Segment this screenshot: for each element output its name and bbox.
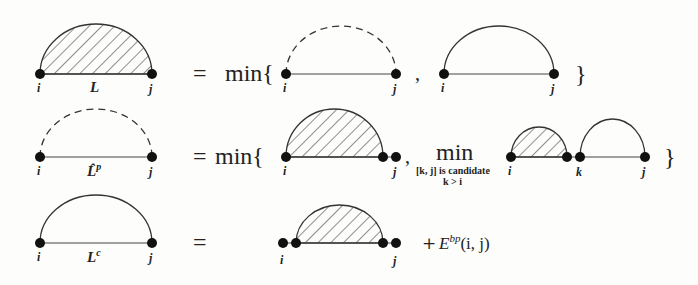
row-3-lhs-solid-loop: i j Lc bbox=[35, 195, 157, 265]
equals-sign: = bbox=[193, 143, 207, 169]
energy-sup-bp: bp bbox=[449, 232, 461, 244]
label-i: i bbox=[37, 81, 41, 95]
energy-expression: Ebp(i, j) bbox=[438, 232, 490, 253]
label-i: i bbox=[37, 164, 41, 178]
label-j: j bbox=[147, 82, 153, 96]
label-sup-p: p bbox=[95, 161, 101, 172]
close-brace: } bbox=[575, 61, 587, 87]
row-2-hatched-loop-double-dot: i j bbox=[281, 109, 401, 179]
label-L-c: Lc bbox=[86, 247, 101, 265]
min-operator: min{ bbox=[225, 60, 274, 86]
comma: , bbox=[405, 145, 410, 167]
solid-arc bbox=[444, 26, 554, 74]
node-j bbox=[147, 238, 157, 248]
label-j: j bbox=[147, 165, 153, 179]
row-1-solid-loop: i j bbox=[439, 26, 559, 96]
dashed-arc bbox=[40, 109, 152, 157]
label-j: j bbox=[640, 165, 646, 179]
label-sup-c: c bbox=[96, 247, 101, 258]
node-k-minus-1 bbox=[562, 152, 572, 162]
node-j bbox=[391, 152, 401, 162]
close-brace: } bbox=[664, 144, 676, 170]
row-3-hatched-loop-double-dots: i j bbox=[278, 205, 401, 268]
row-2-lhs-dashed-loop: i j L̂p bbox=[35, 109, 157, 179]
node-j bbox=[391, 238, 401, 248]
label-j: j bbox=[549, 82, 555, 96]
min-operator: min{ bbox=[215, 143, 264, 169]
comma: , bbox=[415, 62, 420, 84]
min-subscript-k-gt-i: k > i bbox=[443, 176, 462, 187]
node-i bbox=[281, 69, 291, 79]
energy-term: + Ebp(i, j) bbox=[422, 232, 490, 253]
min-subscript-candidate: [k, j] is candidate bbox=[416, 165, 490, 176]
node-k bbox=[575, 152, 585, 162]
label-j: j bbox=[391, 254, 397, 268]
equals-sign: = bbox=[193, 229, 207, 255]
loop-recursion-diagram: i j L = min{ i j , i j } i j L̂p = min{ bbox=[0, 0, 698, 285]
node-j bbox=[147, 69, 157, 79]
energy-E: E bbox=[438, 234, 450, 253]
node-j bbox=[549, 69, 559, 79]
label-i: i bbox=[280, 253, 284, 267]
node-i bbox=[35, 238, 45, 248]
hatched-arc bbox=[40, 24, 152, 74]
label-i: i bbox=[283, 164, 287, 178]
inner-min-candidate: min [k, j] is candidate k > i bbox=[416, 139, 490, 187]
label-i: i bbox=[283, 81, 287, 95]
hatched-arc bbox=[296, 205, 383, 243]
label-L-hat-base: L̂ bbox=[86, 163, 96, 179]
node-i bbox=[35, 69, 45, 79]
node-i bbox=[281, 152, 291, 162]
node-j-minus-1 bbox=[378, 152, 388, 162]
label-i: i bbox=[37, 250, 41, 264]
solid-arc bbox=[40, 195, 152, 243]
label-k: k bbox=[576, 165, 582, 179]
plus-sign: + bbox=[422, 233, 436, 253]
label-j: j bbox=[391, 165, 397, 179]
node-j-minus-1 bbox=[378, 238, 388, 248]
node-i bbox=[35, 152, 45, 162]
inner-min-operator: min bbox=[436, 139, 473, 165]
label-i: i bbox=[441, 81, 445, 95]
node-i-plus-1 bbox=[291, 238, 301, 248]
solid-arc bbox=[580, 119, 645, 157]
node-j bbox=[391, 69, 401, 79]
row-1-dashed-loop: i j bbox=[281, 26, 401, 96]
row-1-lhs-hatched-loop: i j L bbox=[35, 24, 157, 96]
node-i bbox=[439, 69, 449, 79]
node-j bbox=[147, 152, 157, 162]
label-i: i bbox=[508, 164, 512, 178]
equals-sign: = bbox=[193, 60, 207, 86]
node-j bbox=[640, 152, 650, 162]
hatched-arc bbox=[511, 127, 567, 157]
hatched-arc bbox=[286, 109, 383, 157]
dashed-arc bbox=[286, 26, 396, 74]
label-L-hat: L̂p bbox=[86, 161, 101, 179]
label-L: L bbox=[89, 79, 99, 95]
label-j: j bbox=[391, 82, 397, 96]
row-2-split-loops: i k j bbox=[506, 119, 650, 179]
label-L-base: L bbox=[86, 249, 96, 265]
node-i bbox=[278, 238, 288, 248]
energy-args: (i, j) bbox=[460, 234, 489, 253]
node-i bbox=[506, 152, 516, 162]
label-j: j bbox=[147, 251, 153, 265]
